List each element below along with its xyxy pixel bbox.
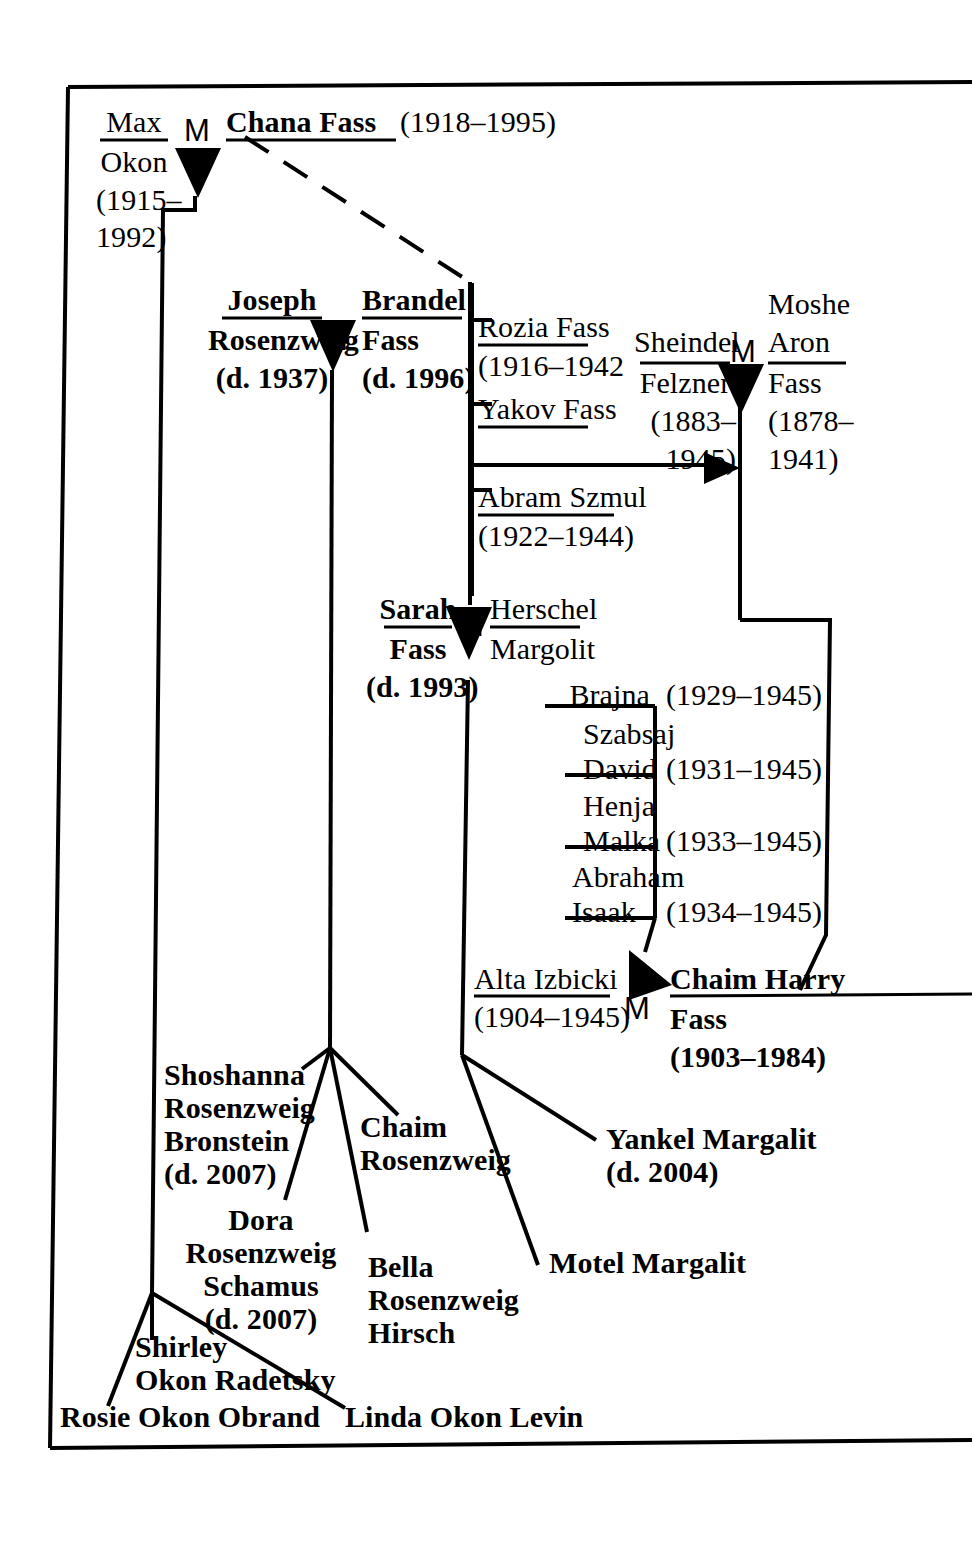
person-max-okon-surname: Okon bbox=[96, 145, 172, 179]
person-rozia-fass-dates: (1916–1942 bbox=[478, 349, 624, 383]
child-henja-dates: (1933–1945) bbox=[666, 824, 822, 858]
bracket-to-union bbox=[645, 918, 655, 952]
child-szabsaj-name-2: David bbox=[583, 752, 657, 786]
person-moshe-aron-fass-dates-1: (1878– bbox=[768, 404, 854, 438]
descendant-dora-line-3: Schamus bbox=[178, 1269, 344, 1303]
child-brajna-dates: (1929–1945) bbox=[666, 678, 822, 712]
felzner-fass-descent bbox=[740, 620, 830, 990]
child-abraham-name-2: Isaak bbox=[572, 895, 636, 929]
person-joseph-rosenzweig-surname: Rosenzweig bbox=[208, 323, 336, 357]
person-sarah-fass-dates: (d. 1993) bbox=[366, 670, 460, 704]
person-yakov-fass-name: Yakov Fass bbox=[478, 392, 617, 426]
person-sheindel-felzner-given: Sheindel bbox=[634, 325, 736, 359]
person-brandel-fass-dates: (d. 1996) bbox=[362, 361, 475, 395]
person-chana-fass-name: Chana Fass bbox=[226, 105, 376, 139]
descendant-chaim-rosenzweig-line-2: Rosenzweig bbox=[360, 1143, 511, 1177]
descendant-dora-line-2: Rosenzweig bbox=[178, 1236, 344, 1270]
frame-bottom bbox=[50, 1440, 972, 1448]
descendant-motel-margalit-name: Motel Margalit bbox=[549, 1246, 746, 1280]
person-max-okon-dates-2: 1992) bbox=[96, 220, 167, 254]
descendant-rosie-okon-obrand: Rosie Okon Obrand bbox=[60, 1400, 320, 1434]
person-chana-fass-dates: (1918–1995) bbox=[400, 105, 556, 139]
descendant-shoshanna-dates: (d. 2007) bbox=[164, 1157, 277, 1191]
person-chaim-harry-fass-surname: Fass bbox=[670, 1002, 727, 1036]
person-moshe-aron-fass-dates-2: 1941) bbox=[768, 442, 839, 476]
descendant-shirley-line-1: Shirley bbox=[135, 1330, 227, 1364]
child-szabsaj-dates: (1931–1945) bbox=[666, 752, 822, 786]
frame-left bbox=[50, 87, 68, 1448]
person-abram-szmul-name: Abram Szmul bbox=[478, 480, 647, 514]
descendant-shoshanna-line-1: Shoshanna bbox=[164, 1058, 305, 1092]
frame-top bbox=[68, 82, 972, 87]
descendant-shirley-line-2: Okon Radetsky bbox=[135, 1363, 336, 1397]
person-brandel-fass-given: Brandel bbox=[362, 283, 466, 317]
child-szabsaj-name-1: Szabsaj bbox=[583, 717, 675, 751]
child-henja-name-1: Henja bbox=[583, 789, 655, 823]
child-brajna-name: Brajna bbox=[485, 678, 650, 712]
person-moshe-aron-fass-given-1: Moshe bbox=[768, 287, 850, 321]
person-chaim-harry-fass-given: Chaim Harry bbox=[670, 962, 845, 996]
person-abram-szmul-dates: (1922–1944) bbox=[478, 519, 634, 553]
rosenzweig-descent bbox=[330, 370, 332, 1048]
descendant-linda-okon-levin: Linda Okon Levin bbox=[345, 1400, 583, 1434]
descendant-yankel-margalit-name: Yankel Margalit bbox=[606, 1122, 817, 1156]
person-max-okon-given: Max bbox=[96, 105, 172, 139]
descendant-shoshanna-line-2: Rosenzweig bbox=[164, 1091, 315, 1125]
descendant-bella-line-1: Bella bbox=[368, 1250, 434, 1284]
person-max-okon-dates-1: (1915– bbox=[96, 183, 182, 217]
person-herschel-margolit-surname: Margolit bbox=[490, 632, 595, 666]
person-joseph-rosenzweig-dates: (d. 1937) bbox=[208, 361, 336, 395]
person-sheindel-felzner-surname: Felzner bbox=[634, 366, 736, 400]
child-henja-name-2: Malka bbox=[583, 824, 660, 858]
person-moshe-aron-fass-given-2: Aron bbox=[768, 325, 830, 359]
descendant-yankel-margalit-dates: (d. 2004) bbox=[606, 1155, 719, 1189]
person-herschel-margolit-given: Herschel bbox=[490, 592, 597, 626]
descendant-chaim-rosenzweig-line-1: Chaim bbox=[360, 1110, 447, 1144]
person-alta-izbicki-name: Alta Izbicki bbox=[474, 962, 618, 996]
person-sheindel-felzner-dates-2: 1945) bbox=[614, 442, 736, 476]
person-moshe-aron-fass-surname: Fass bbox=[768, 366, 822, 400]
child-abraham-dates: (1934–1945) bbox=[666, 895, 822, 929]
descendant-bella-line-3: Hirsch bbox=[368, 1316, 455, 1350]
person-chaim-harry-fass-dates: (1903–1984) bbox=[670, 1040, 826, 1074]
person-sarah-fass-given: Sarah bbox=[376, 592, 460, 626]
person-sarah-fass-surname: Fass bbox=[376, 632, 460, 666]
margolit-descent bbox=[462, 680, 468, 1055]
descendant-dora-line-1: Dora bbox=[178, 1203, 344, 1237]
person-rozia-fass-name: Rozia Fass bbox=[478, 310, 610, 344]
mg-child-yankel bbox=[462, 1055, 596, 1140]
person-joseph-rosenzweig-given: Joseph bbox=[208, 283, 336, 317]
marriage-symbol-sarah-herschel: M bbox=[458, 608, 484, 643]
person-sheindel-felzner-dates-1: (1883– bbox=[614, 404, 736, 438]
marriage-symbol-okon-chana: M bbox=[184, 113, 210, 148]
person-alta-izbicki-dates: (1904–1945) bbox=[474, 1000, 630, 1034]
descendant-shoshanna-line-3: Bronstein bbox=[164, 1124, 289, 1158]
person-brandel-fass-surname: Fass bbox=[362, 323, 419, 357]
descendant-bella-line-2: Rosenzweig bbox=[368, 1283, 519, 1317]
child-abraham-name-1: Abraham bbox=[572, 860, 684, 894]
family-tree-diagram: Max Okon (1915– 1992) M M M M M Chana Fa… bbox=[0, 0, 972, 1564]
